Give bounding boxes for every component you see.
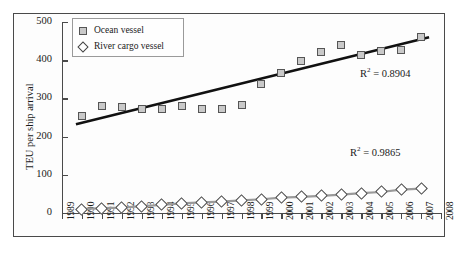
ocean-data-point [198, 105, 206, 113]
ocean-data-point [357, 51, 365, 59]
ocean-data-point [257, 80, 265, 88]
square-marker-icon [79, 27, 87, 35]
ocean-data-point [178, 102, 186, 110]
ocean-data-point [218, 105, 226, 113]
ocean-data-point [78, 112, 86, 120]
r2-annotation-ocean: R2 = 0.8904 [360, 66, 411, 79]
ocean-data-point [238, 101, 246, 109]
ocean-data-point [158, 105, 166, 113]
legend-item-river: River cargo vessel [79, 40, 177, 54]
ocean-data-point [138, 105, 146, 113]
ocean-data-point [337, 41, 345, 49]
ocean-data-point [377, 47, 385, 55]
diamond-marker-icon [77, 41, 88, 52]
figure: TEU per ship arrival 5004003002001000 19… [0, 0, 458, 258]
legend: Ocean vessel River cargo vessel [72, 18, 184, 57]
legend-item-ocean: Ocean vessel [79, 24, 177, 38]
ocean-data-point [98, 102, 106, 110]
ocean-data-point [417, 33, 425, 41]
ocean-data-point [277, 69, 285, 77]
ocean-data-point [317, 48, 325, 56]
ocean-data-point [118, 103, 126, 111]
r2-annotation-river: R2 = 0.9865 [350, 145, 401, 158]
legend-label-river: River cargo vessel [94, 42, 164, 52]
ocean-data-point [397, 46, 405, 54]
ocean-data-point [297, 57, 305, 65]
river-series-line [0, 0, 458, 258]
legend-label-ocean: Ocean vessel [94, 26, 144, 36]
